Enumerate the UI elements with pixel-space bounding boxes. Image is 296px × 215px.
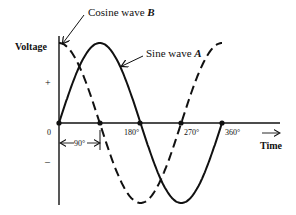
minus-sign: – [45, 156, 50, 167]
tick-270: 270° [184, 128, 199, 137]
diagram-canvas [0, 0, 296, 215]
cosine-callout-arrow [63, 15, 84, 43]
cosine-wave-label: Cosine wave B [88, 6, 155, 18]
sine-wave-label: Sine wave A [146, 47, 202, 59]
plus-sign: + [45, 77, 51, 88]
sine-callout-arrow [122, 56, 143, 66]
tick-180: 180° [124, 128, 139, 137]
origin-label: 0 [47, 128, 51, 137]
y-axis-label: Voltage [15, 41, 47, 52]
tick-360: 360° [225, 128, 240, 137]
phase-shift-label: 90° [74, 139, 85, 148]
x-axis-label: Time [260, 140, 282, 151]
sine-cosine-phase-diagram: Cosine wave B Sine wave A Voltage + – 0 … [0, 0, 296, 215]
